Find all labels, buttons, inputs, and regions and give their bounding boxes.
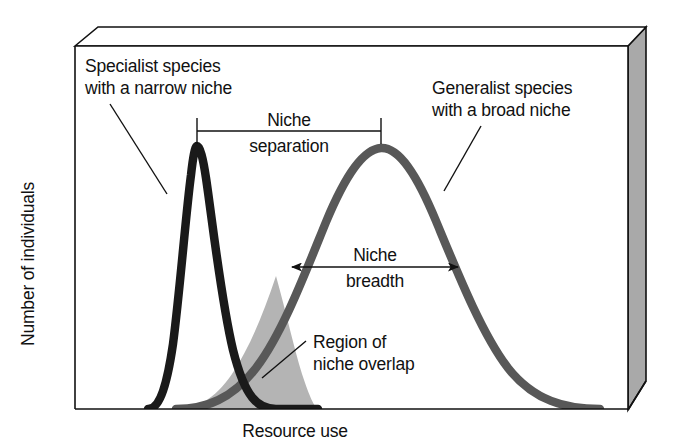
niche-breadth-label-line1: Niche (353, 245, 397, 265)
generalist-label-line2: with a broad niche (431, 100, 570, 120)
diagram-canvas: Number of individuals Resource use Speci… (0, 0, 676, 444)
box-top-face (75, 27, 646, 46)
niche-overlap-label-line1: Region of (313, 332, 386, 352)
box-side-panel (628, 27, 646, 410)
box-right-face (628, 27, 646, 410)
y-axis-label: Number of individuals (18, 181, 38, 346)
specialist-label-line1: Specialist species (85, 56, 221, 76)
generalist-label-line1: Generalist species (432, 78, 573, 98)
niche-overlap-label-line2: niche overlap (313, 354, 415, 374)
specialist-label-line2: with a narrow niche (84, 78, 232, 98)
niche-separation-label-line2: separation (249, 136, 329, 156)
niche-separation-label-line1: Niche (267, 110, 311, 130)
niche-diagram-figure: Number of individuals Resource use Speci… (0, 0, 676, 444)
niche-breadth-label-line2: breadth (346, 271, 404, 291)
x-axis-label: Resource use (242, 421, 348, 441)
box-top-panel (75, 27, 646, 46)
